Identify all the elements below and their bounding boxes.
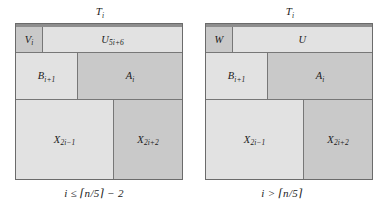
left-panel-condition: i ≤ ⌈n/5⌉ − 2 (0, 186, 188, 200)
right-panel-box: W U Bi+1 Ai X2i−1 X2i+2 (205, 23, 373, 180)
region-u: U5i+6 (43, 27, 182, 53)
right-panel-condition: i > ⌈n/5⌉ (188, 186, 376, 200)
left-panel-title: Ti (14, 4, 186, 20)
region-w: W (206, 27, 233, 53)
region-u: U (233, 27, 372, 53)
left-panel: Ti Vi U5i+6 Bi+1 Ai X2i−1 X2i+2 i (0, 0, 188, 214)
region-x2: X2i+2 (114, 100, 182, 179)
left-panel-box: Vi U5i+6 Bi+1 Ai X2i−1 X2i+2 (15, 23, 183, 180)
region-x1: X2i−1 (16, 100, 114, 179)
region-v: Vi (16, 27, 43, 53)
region-a: Ai (78, 53, 182, 100)
right-panel: Ti W U Bi+1 Ai X2i−1 X2i+2 i > ⌈n/ (188, 0, 376, 214)
region-a: Ai (268, 53, 372, 100)
right-panel-title: Ti (204, 4, 376, 20)
region-b: Bi+1 (16, 53, 78, 100)
region-x1: X2i−1 (206, 100, 304, 179)
region-x2: X2i+2 (304, 100, 372, 179)
partition-figure: Ti Vi U5i+6 Bi+1 Ai X2i−1 X2i+2 i (0, 0, 376, 214)
region-b: Bi+1 (206, 53, 268, 100)
